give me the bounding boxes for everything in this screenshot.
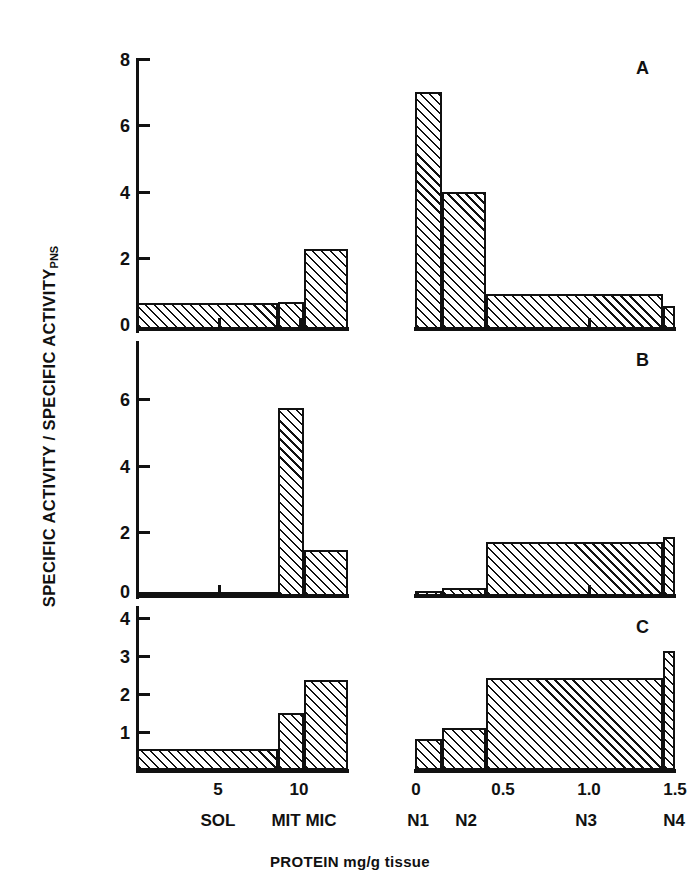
panel-a-tick-4 xyxy=(139,191,150,194)
panel-c-tick-1 xyxy=(139,731,150,734)
x-axis-title: PROTEIN mg/g tissue xyxy=(0,853,700,870)
y-axis-title-main: SPECIFIC ACTIVITY / SPECIFIC ACTIVITY xyxy=(40,268,58,607)
panel-c-left-xlabel-5: 5 xyxy=(198,781,238,798)
panel-c-right-bar-n3 xyxy=(486,678,663,770)
panel-c-right-xlabel-10: 1.0 xyxy=(567,781,611,798)
panel-b-right-x-axis xyxy=(414,594,676,598)
panel-b-y-axis xyxy=(136,341,139,599)
y-axis-title: SPECIFIC ACTIVITY / SPECIFIC ACTIVITYPNS xyxy=(40,157,59,697)
panel-b-left-bar-mit xyxy=(278,408,304,596)
panel-a-right-bar-n1 xyxy=(415,92,442,329)
panel-a-right-bar-n2 xyxy=(442,192,486,329)
panel-b-ylabel-2: 2 xyxy=(104,524,130,542)
panel-a-letter: A xyxy=(636,58,649,79)
panel-c-ylabel-2: 2 xyxy=(104,686,130,704)
panel-a-left-bar-sol xyxy=(137,303,278,329)
panel-c-right-xlabel-05: 0.5 xyxy=(481,781,525,798)
panel-a-ylabel-8: 8 xyxy=(104,51,130,69)
panel-c-right-xlabel-0: 0 xyxy=(396,781,436,798)
panel-b-letter: B xyxy=(636,350,649,371)
panel-a-ylabel-4: 4 xyxy=(104,184,130,202)
panel-a-ylabel-6: 6 xyxy=(104,117,130,135)
panel-a-right-bar-n4 xyxy=(663,306,675,329)
panel-c-left-category-sol: SOL xyxy=(188,812,248,829)
panel-c-left-xlabel-10: 10 xyxy=(279,781,319,798)
panel-b-right-bar-n3 xyxy=(486,542,663,596)
panel-c-right-category-n1: N1 xyxy=(396,812,440,829)
panel-c-right-bar-n4 xyxy=(663,651,675,770)
panel-c-tick-3 xyxy=(139,655,150,658)
panel-c-left-x-axis xyxy=(136,769,349,773)
panel-a-tick-2 xyxy=(139,257,150,260)
panel-b-tick-4 xyxy=(139,465,150,468)
figure-root: SPECIFIC ACTIVITY / SPECIFIC ACTIVITYPNS… xyxy=(0,0,700,896)
panel-c-left-bar-sol xyxy=(137,749,278,770)
panel-b-left-bar-mic xyxy=(304,550,348,596)
panel-c-ylabel-4: 4 xyxy=(104,610,130,628)
panel-c-tick-4 xyxy=(139,617,150,620)
panel-b-ylabel-0: 0 xyxy=(104,583,130,601)
panel-a-ylabel-2: 2 xyxy=(104,250,130,268)
panel-a-ylabel-0: 0 xyxy=(104,316,130,334)
panel-c-right-category-n3: N3 xyxy=(564,812,608,829)
panel-c-ylabel-3: 3 xyxy=(104,648,130,666)
panel-a-left-x-axis xyxy=(136,327,349,331)
panel-c-left-bar-mic xyxy=(304,680,348,770)
panel-c-right-bar-n1 xyxy=(415,739,442,770)
panel-c-left-bar-mit xyxy=(278,713,304,770)
panel-c-right-category-n4: N4 xyxy=(652,812,696,829)
panel-c-right-x-axis xyxy=(414,769,676,773)
panel-a-left-xtick-5 xyxy=(218,318,221,327)
panel-c-right-bar-n2 xyxy=(442,728,486,770)
panel-a-left-xtick-10 xyxy=(299,318,302,327)
y-axis-title-subscript: PNS xyxy=(48,246,60,269)
panel-b-right-bar-n4 xyxy=(663,537,675,596)
panel-b-tick-2 xyxy=(139,531,150,534)
panel-c-left-category-mitmic: MIT MIC xyxy=(259,812,349,829)
panel-a-tick-8 xyxy=(139,58,150,61)
panel-a-tick-6 xyxy=(139,124,150,127)
panel-a-right-xtick-10 xyxy=(588,318,591,327)
panel-a-right-x-axis xyxy=(414,327,676,331)
panel-b-left-x-axis xyxy=(136,594,349,598)
panel-a-right-bar-n3 xyxy=(486,294,663,329)
panel-a-y-axis xyxy=(136,58,139,333)
panel-b-left-xtick-5 xyxy=(218,585,221,594)
panel-c-letter: C xyxy=(636,617,649,638)
panel-b-ylabel-4: 4 xyxy=(104,458,130,476)
panel-b-right-xtick-10 xyxy=(588,585,591,594)
panel-c-ylabel-1: 1 xyxy=(104,724,130,742)
panel-c-y-axis xyxy=(136,606,139,772)
panel-c-right-xlabel-15: 1.5 xyxy=(653,781,697,798)
panel-c-tick-2 xyxy=(139,693,150,696)
panel-b-tick-6 xyxy=(139,398,150,401)
panel-b-ylabel-6: 6 xyxy=(104,391,130,409)
panel-c-right-category-n2: N2 xyxy=(444,812,488,829)
panel-a-left-bar-mic xyxy=(304,249,348,329)
